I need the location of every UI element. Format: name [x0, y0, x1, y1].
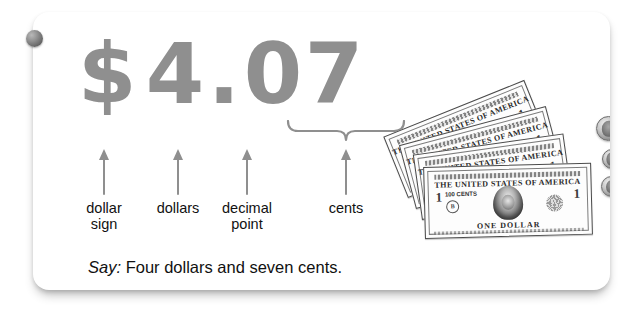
coin-nickel	[596, 116, 610, 141]
pin-icon	[26, 30, 43, 47]
lesson-card-inner: $ 4 . 0 7	[33, 12, 610, 290]
amount-display: $ 4 . 0 7	[78, 28, 364, 120]
say-line: Say: Four dollars and seven cents.	[88, 258, 342, 277]
label-decimal-point: decimal point	[207, 200, 287, 232]
say-sentence: Four dollars and seven cents.	[126, 258, 342, 276]
coin-penny	[601, 176, 610, 197]
say-prefix: Say:	[88, 258, 121, 276]
page-stage: $ 4 . 0 7	[0, 0, 633, 309]
cents-ones-glyph: 7	[304, 32, 364, 116]
bill-corner-right: 1	[570, 184, 585, 204]
label-dollars: dollars	[138, 200, 218, 216]
money-illustration: THE UNITED STATES OF AMERICA 100 CENTS B…	[408, 110, 610, 245]
bill-corner-left: 1	[432, 187, 447, 207]
lesson-card: $ 4 . 0 7	[33, 12, 610, 290]
label-cents: cents	[306, 200, 386, 216]
arrow-decimal-point-icon	[240, 147, 254, 195]
arrow-dollar-sign-icon	[97, 147, 111, 195]
decimal-point-glyph: .	[206, 32, 242, 116]
bill-portrait-icon	[493, 185, 524, 220]
label-dollar-sign: dollar sign	[64, 200, 144, 232]
coin-penny	[602, 149, 610, 169]
cents-tens-glyph: 0	[242, 32, 304, 116]
arrow-dollars-icon	[171, 147, 185, 195]
dollar-bill: THE UNITED STATES OF AMERICA 100 CENTS B…	[423, 163, 593, 239]
bill-cents-note: 100 CENTS	[445, 191, 477, 198]
dollar-sign-glyph: $	[78, 32, 136, 116]
dollars-digit-glyph: 4	[144, 32, 206, 116]
arrow-cents-icon	[339, 147, 353, 195]
